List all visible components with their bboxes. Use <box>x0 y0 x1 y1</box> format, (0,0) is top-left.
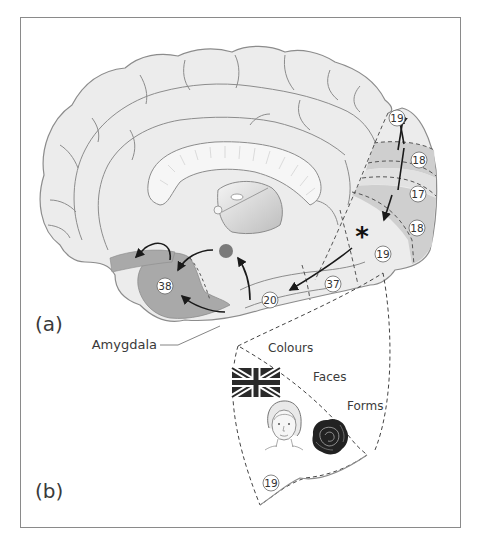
interthalamic-adhesion <box>231 194 243 200</box>
area-18-lower-label: 18 <box>409 220 425 236</box>
area-19-top-label: 19 <box>389 110 405 126</box>
rose-icon <box>312 419 348 454</box>
faces-label: Faces <box>313 370 346 384</box>
area-18-upper-label: 18 <box>411 152 427 168</box>
panel-b-label: (b) <box>35 479 63 503</box>
colours-label: Colours <box>268 341 313 355</box>
area-17-label: 17 <box>410 186 426 202</box>
amygdala-leader-line <box>160 326 220 345</box>
svg-text:19: 19 <box>264 477 277 489</box>
thalamus <box>218 181 283 233</box>
svg-text:19: 19 <box>390 112 403 124</box>
svg-text:19: 19 <box>376 248 389 260</box>
svg-text:38: 38 <box>158 280 171 292</box>
svg-text:37: 37 <box>326 278 339 290</box>
area-20-label: 20 <box>262 292 278 308</box>
amygdala-label: Amygdala <box>92 337 157 352</box>
area-38-label: 38 <box>157 278 173 294</box>
forms-label: Forms <box>347 399 383 413</box>
svg-text:18: 18 <box>412 154 425 166</box>
lesion-marker: * <box>355 222 369 252</box>
inset-area-19-label: 19 <box>263 475 279 491</box>
svg-text:20: 20 <box>263 294 276 306</box>
panel-a-label: (a) <box>35 312 63 336</box>
anterior-commissure <box>214 206 222 214</box>
svg-text:17: 17 <box>411 188 424 200</box>
svg-text:18: 18 <box>410 222 423 234</box>
union-flag-icon <box>232 368 280 397</box>
amygdala-dot <box>219 244 233 258</box>
face-portrait-icon <box>265 401 303 450</box>
brain-diagram: * 19 18 17 18 19 37 20 38 Amygdala (a) (… <box>0 0 480 545</box>
area-37-label: 37 <box>325 276 341 292</box>
area-19-lower-label: 19 <box>375 246 391 262</box>
